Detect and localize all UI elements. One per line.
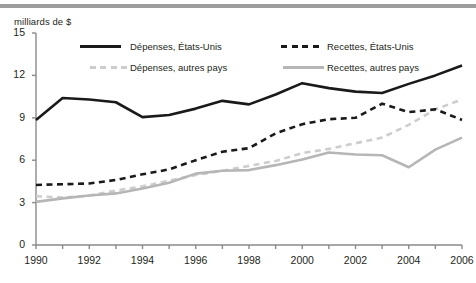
legend-swatch	[80, 45, 121, 48]
y-axis-tick-label: 6	[3, 153, 25, 165]
y-axis-tick-label: 12	[3, 68, 25, 80]
y-axis-tick-label: 0	[3, 238, 25, 250]
legend-swatch	[283, 66, 324, 69]
y-axis-tick-label: 9	[3, 111, 25, 123]
legend-label: Dépenses, autres pays	[130, 62, 227, 73]
series-line	[36, 66, 462, 120]
x-axis-tick-label: 1996	[174, 254, 218, 266]
x-axis-tick-label: 2004	[387, 254, 431, 266]
y-axis-tick-label: 15	[3, 26, 25, 38]
x-axis-tick-label: 2002	[334, 254, 378, 266]
legend-swatch	[281, 45, 322, 48]
x-axis-tick-label: 2006	[440, 254, 476, 266]
x-axis-tick-label: 1998	[227, 254, 271, 266]
legend-label: Dépenses, États-Unis	[130, 41, 222, 52]
line-chart: milliards de $ 03691215 1990199219941996…	[0, 0, 476, 283]
legend-label: Recettes, États-Unis	[327, 41, 414, 52]
series-line	[36, 104, 462, 185]
x-axis-tick-label: 1990	[14, 254, 58, 266]
x-axis-tick-label: 1994	[121, 254, 165, 266]
x-axis-tick-label: 2000	[280, 254, 324, 266]
y-axis-tick-label: 3	[3, 196, 25, 208]
legend-label: Recettes, autres pays	[327, 62, 419, 73]
chart-series-group	[36, 66, 462, 202]
x-axis-tick-label: 1992	[67, 254, 111, 266]
legend-swatch	[90, 66, 131, 69]
